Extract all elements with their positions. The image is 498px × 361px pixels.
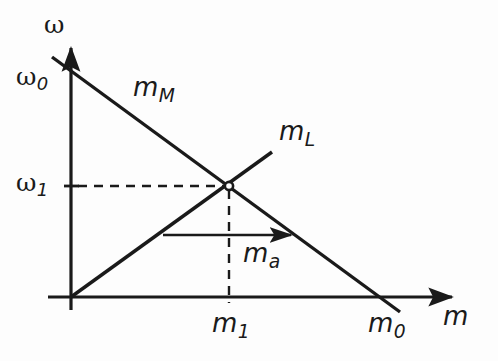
- omega1-sub: 1: [37, 179, 48, 200]
- omega0-label: ω0: [16, 64, 48, 89]
- load-line-label-sub: L: [305, 129, 315, 150]
- omega0-base: ω: [16, 62, 36, 91]
- motor-line-label: mM: [133, 74, 174, 100]
- m0-base: m: [368, 308, 393, 338]
- m0-sub: 0: [394, 321, 406, 342]
- torque-speed-diagram: ω m ω0 ω1 m1 m0 mM mL ma: [0, 0, 498, 361]
- m1-base: m: [212, 308, 237, 338]
- diagram-canvas: [0, 0, 498, 361]
- omega-axis-label: ω: [44, 12, 64, 37]
- m1-label: m1: [212, 310, 249, 336]
- motor-line-label-base: m: [133, 72, 158, 102]
- omega1-label: ω1: [16, 170, 48, 195]
- acceleration-torque-label-sub: a: [269, 251, 280, 272]
- operating-point-marker: [225, 182, 233, 190]
- load-line: [71, 152, 272, 297]
- m0-label: m0: [368, 310, 405, 336]
- load-line-label: mL: [279, 118, 315, 144]
- acceleration-torque-label-base: m: [243, 238, 268, 268]
- m1-sub: 1: [238, 321, 250, 342]
- m-axis-label: m: [443, 303, 468, 329]
- motor-line-label-sub: M: [159, 85, 175, 106]
- omega1-base: ω: [16, 168, 36, 197]
- acceleration-torque-label: ma: [243, 240, 280, 266]
- omega0-sub: 0: [37, 73, 48, 94]
- load-line-label-base: m: [279, 116, 304, 146]
